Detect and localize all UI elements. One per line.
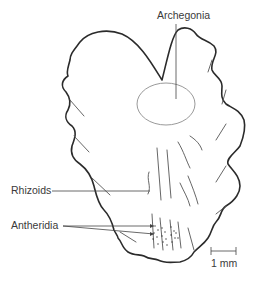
antheridia-arrowhead-1 (150, 224, 154, 228)
rhizoids (148, 136, 202, 250)
antheridia-dots (152, 225, 178, 245)
thallus-outline (62, 28, 244, 263)
scale-bar-label: 1 mm (211, 258, 237, 269)
archegonia-label: Archegonia (157, 10, 210, 21)
antheridia-leader-2 (63, 226, 154, 234)
rhizoids-label: Rhizoids (11, 185, 51, 196)
antheridia-label: Antheridia (11, 220, 58, 231)
scale-bar (211, 247, 236, 255)
archegonia-cluster (137, 83, 195, 125)
prothallus-diagram (0, 0, 265, 281)
